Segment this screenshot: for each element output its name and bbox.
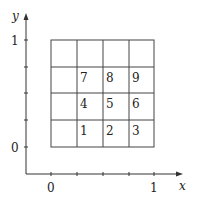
y-tick-label-1: 1	[11, 34, 19, 48]
cell-label: 8	[106, 71, 114, 85]
cell-label: 6	[132, 97, 140, 111]
cell-label: 4	[80, 97, 88, 111]
y-axis-label: y	[11, 9, 19, 23]
x-tick-label-0: 0	[47, 181, 55, 195]
cell-label: 5	[106, 97, 114, 111]
axes	[26, 18, 178, 174]
y-tick-label-0: 0	[11, 141, 19, 155]
cell-label: 9	[132, 71, 140, 85]
cell-label: 1	[80, 124, 88, 138]
grid-diagram: y 1 0 0 1 x 7 8 9 4 5 6 1 2 3	[0, 0, 197, 207]
x-axis-label: x	[179, 179, 186, 193]
y-axis-arrow-icon	[24, 13, 29, 20]
cell-label: 3	[132, 124, 140, 138]
x-tick-label-1: 1	[150, 181, 158, 195]
cell-label: 7	[80, 71, 88, 85]
x-axis-arrow-icon	[176, 172, 183, 177]
cell-labels: 7 8 9 4 5 6 1 2 3	[80, 71, 140, 138]
cell-label: 2	[106, 124, 114, 138]
